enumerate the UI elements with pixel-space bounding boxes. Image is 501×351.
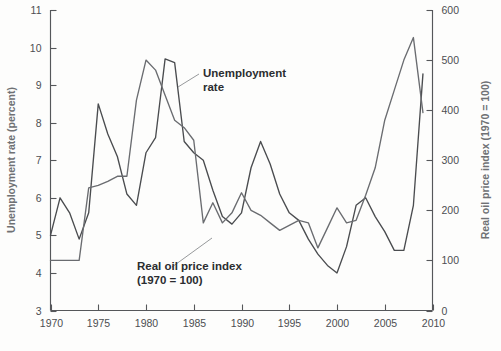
right-tick-label: 600	[442, 4, 460, 16]
bottom-tick-label: 2005	[374, 317, 398, 329]
bottom-tick-label: 1975	[87, 317, 111, 329]
bottom-tick-label: 1985	[183, 317, 207, 329]
right-tick-group: 0100200300400500600	[427, 4, 460, 317]
right-tick-label: 500	[442, 54, 460, 66]
unemployment-label-line2: rate	[203, 81, 224, 93]
left-tick-label: 4	[36, 267, 42, 279]
right-axis-title: Real oil price index (1970 = 100)	[479, 81, 491, 239]
left-tick-group: 34567891011	[30, 4, 57, 317]
right-tick-label: 400	[442, 104, 460, 116]
left-tick-label: 11	[31, 4, 42, 16]
oil-label-line1: Real oil price index	[137, 260, 242, 272]
left-tick-label: 3	[36, 305, 42, 317]
bottom-tick-label: 1970	[40, 317, 64, 329]
bottom-tick-group: 197019751980198519901995200020052010	[40, 305, 446, 329]
left-tick-label: 7	[36, 154, 42, 166]
left-tick-label: 10	[30, 42, 42, 54]
bottom-tick-label: 1980	[135, 317, 159, 329]
right-tick-label: 300	[442, 154, 460, 166]
chart-svg: 34567891011 0100200300400500600 19701975…	[0, 0, 501, 351]
oil-label-line2: (1970 = 100)	[137, 274, 203, 286]
right-tick-label: 0	[442, 305, 448, 317]
left-tick-label: 6	[36, 192, 42, 204]
left-tick-label: 9	[36, 79, 42, 91]
chart-container: 34567891011 0100200300400500600 19701975…	[0, 0, 501, 351]
left-tick-label: 8	[36, 117, 42, 129]
left-axis-title: Unemployment rate (percent)	[5, 87, 17, 233]
left-tick-label: 5	[36, 229, 42, 241]
right-tick-label: 200	[442, 204, 460, 216]
bottom-tick-label: 1995	[278, 317, 302, 329]
unemployment-leader-line	[178, 74, 199, 87]
bottom-tick-label: 2000	[326, 317, 350, 329]
right-tick-label: 100	[442, 254, 460, 266]
series-line-unemployment-rate	[51, 59, 423, 273]
bottom-tick-label: 2010	[422, 317, 446, 329]
bottom-tick-label: 1990	[231, 317, 255, 329]
unemployment-label-line1: Unemployment	[203, 67, 286, 79]
